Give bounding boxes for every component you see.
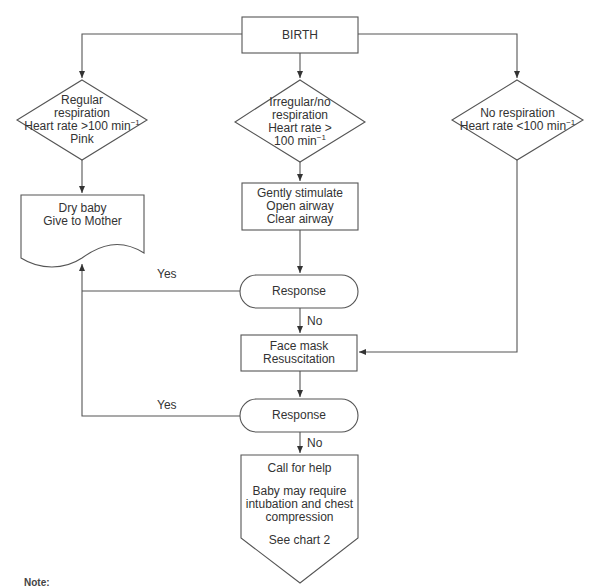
regular-hr-text: Heart rate >100 min bbox=[24, 119, 130, 133]
edge-none-facemask bbox=[359, 160, 517, 352]
face-mask-label: Face mask Resuscitation bbox=[241, 335, 357, 371]
footnote-prefix: Note: bbox=[24, 577, 50, 586]
edge-label-yes-2: Yes bbox=[157, 398, 177, 412]
footnote: Note: bbox=[24, 577, 50, 586]
irregular-respiration-label: Irregular/no respiration Heart rate > 10… bbox=[235, 94, 365, 150]
response-1-text: Response bbox=[272, 285, 326, 298]
response-1-label: Response bbox=[240, 275, 358, 308]
edge-label-yes-1: Yes bbox=[157, 267, 177, 281]
dry-baby-label: Dry baby Give to Mother bbox=[21, 200, 144, 230]
irregular-line-4: 100 min−1 bbox=[274, 135, 326, 148]
edge-birth-regular bbox=[82, 34, 242, 78]
dry-baby-line-2: Give to Mother bbox=[43, 215, 122, 228]
call-for-help-label: Call for help Baby may require intubatio… bbox=[241, 462, 358, 554]
edge-label-no-1: No bbox=[307, 314, 322, 328]
call-help-line-1: Call for help bbox=[267, 462, 331, 475]
regular-line-4: Pink bbox=[70, 133, 93, 146]
none-hr-text: Heart rate <100 min bbox=[460, 119, 566, 133]
edge-birth-none bbox=[358, 34, 517, 78]
edge-label-no-2: No bbox=[307, 436, 322, 450]
birth-label: BIRTH bbox=[242, 17, 358, 53]
response-2-label: Response bbox=[240, 399, 358, 432]
face-mask-line-2: Resuscitation bbox=[263, 353, 335, 366]
none-sup: −1 bbox=[566, 118, 575, 127]
call-help-line-5: compression bbox=[265, 511, 333, 524]
regular-sup: −1 bbox=[131, 118, 140, 127]
response-2-text: Response bbox=[272, 409, 326, 422]
edge-response2-yes bbox=[82, 264, 240, 416]
no-respiration-label: No respiration Heart rate <100 min−1 bbox=[452, 104, 583, 136]
stimulate-label: Gently stimulate Open airway Clear airwa… bbox=[242, 183, 358, 230]
birth-text: BIRTH bbox=[282, 29, 318, 42]
stimulate-line-3: Clear airway bbox=[267, 213, 334, 226]
irregular-min-text: 100 min bbox=[274, 134, 317, 148]
regular-respiration-label: Regular respiration Heart rate >100 min−… bbox=[17, 92, 147, 148]
none-line-2: Heart rate <100 min−1 bbox=[460, 120, 576, 133]
irregular-sup: −1 bbox=[317, 133, 326, 142]
call-help-line-7: See chart 2 bbox=[269, 534, 330, 547]
